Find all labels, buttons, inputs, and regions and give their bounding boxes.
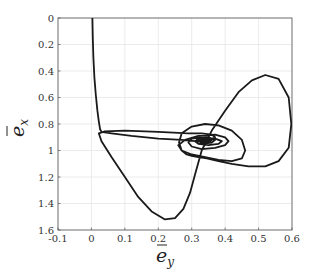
x-axis-label-subscript: y: [166, 255, 174, 269]
x-tick-label: 0.2: [150, 233, 166, 244]
x-tick-label: 0: [88, 233, 94, 244]
x-tick-label: 0.5: [251, 233, 267, 244]
y-tick-label: 0.6: [38, 92, 54, 103]
y-tick-label: 0: [48, 13, 54, 24]
y-tick-label: 0.2: [38, 39, 54, 50]
x-tick-label: 0.4: [217, 233, 233, 244]
y-tick-label: 1.4: [38, 198, 54, 209]
x-tick-label: 0.6: [284, 233, 300, 244]
y-axis-label-main: e: [6, 126, 28, 137]
y-tick-label: 0.4: [38, 66, 54, 77]
y-tick-label: 1.2: [38, 172, 54, 183]
y-tick-label: 0.8: [38, 119, 54, 130]
x-axis-label-main: e: [156, 244, 167, 266]
x-tick-label: 0.3: [184, 233, 200, 244]
trajectory-chart: -0.100.10.20.30.40.50.6 00.20.40.60.811.…: [0, 0, 317, 276]
y-axis-label-subscript: x: [17, 119, 31, 126]
x-tick-label: 0.1: [117, 233, 133, 244]
y-tick-label: 1.6: [38, 225, 54, 236]
y-tick-label: 1: [48, 145, 54, 156]
